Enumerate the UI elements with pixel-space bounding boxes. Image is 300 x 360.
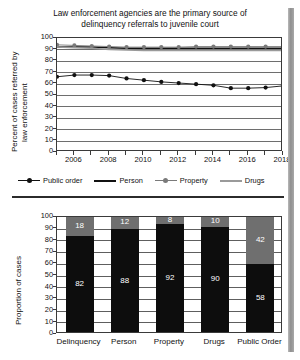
line-chart-x-tickmark (160, 151, 161, 155)
line-chart-x-tickmark (177, 151, 178, 155)
line-chart-x-tickmark (125, 151, 126, 155)
bar-column-drugs[interactable]: 9010 (201, 216, 229, 332)
line-marker (72, 43, 76, 47)
bar-value-label: 88 (111, 277, 139, 285)
bar-value-label: 8 (156, 216, 184, 224)
line-chart-x-tickmark (212, 151, 213, 155)
bar-segment-law-enforcement: 90 (201, 227, 229, 332)
legend-swatch-icon (94, 177, 116, 185)
line-chart-series-layer (57, 38, 282, 151)
line-chart-title-line2: delinquency referrals to juvenile court (30, 19, 270, 30)
bar-segment-law-enforcement: 82 (66, 236, 94, 332)
line-chart-legend: Public orderPersonPropertyDrugs (18, 176, 282, 185)
legend-item-person[interactable]: Person (94, 176, 143, 185)
bar-category-label: Public Order (231, 337, 288, 346)
line-chart-x-tickmark (56, 151, 57, 155)
line-marker (124, 76, 128, 80)
line-chart-x-tickmark (142, 151, 143, 155)
legend-swatch-icon (18, 177, 40, 185)
line-marker (229, 86, 233, 90)
line-marker (211, 83, 215, 87)
bar-chart-y-tick-label: 80 (38, 236, 53, 243)
legend-label: Public order (43, 176, 83, 185)
bar-chart-y-tick-label: 10 (38, 318, 53, 325)
line-chart-y-tick-label: 50 (38, 90, 53, 97)
line-chart-y-tick-label: 80 (38, 56, 53, 63)
line-marker (246, 86, 250, 90)
legend-swatch-icon (220, 177, 242, 185)
bar-value-label: 90 (201, 275, 229, 283)
line-marker (281, 84, 282, 88)
bar-column-delinquency[interactable]: 8218 (66, 216, 94, 332)
line-chart-x-tickmark (247, 151, 248, 155)
legend-item-public-order[interactable]: Public order (18, 176, 83, 185)
bar-column-property[interactable]: 928 (156, 216, 184, 332)
line-marker (90, 44, 94, 48)
line-marker (107, 44, 111, 48)
legend-item-drugs[interactable]: Drugs (220, 176, 266, 185)
bar-segment-law-enforcement: 92 (156, 224, 184, 332)
line-chart-y-tick-label: 10 (38, 136, 53, 143)
legend-swatch-icon (155, 177, 177, 185)
line-marker (211, 44, 215, 48)
line-chart-x-tick-label: 2006 (57, 156, 89, 164)
line-marker (246, 44, 250, 48)
section-divider (12, 196, 284, 198)
bar-segment-law-enforcement: 88 (111, 229, 139, 332)
bar-value-label: 58 (246, 294, 274, 302)
line-chart-y-tick-label: 40 (38, 102, 53, 109)
line-marker (159, 45, 163, 49)
line-chart-y-tick-label: 20 (38, 125, 53, 132)
bar-chart-y-tick-label: 20 (38, 306, 53, 313)
line-marker (142, 45, 146, 49)
scan-artifact-strip (288, 8, 294, 352)
bar-segment-other-source: 8 (156, 216, 184, 224)
legend-label: Person (119, 176, 143, 185)
bar-value-label: 12 (111, 218, 139, 226)
bar-chart-y-tick-label: 70 (38, 247, 53, 254)
legend-label: Drugs (245, 176, 266, 185)
legend-item-property[interactable]: Property (155, 176, 209, 185)
line-chart-x-tick-label: 2010 (127, 156, 159, 164)
bar-segment-other-source: 12 (111, 216, 139, 229)
bar-chart-y-tick-label: 90 (38, 224, 53, 231)
bar-column-person[interactable]: 8812 (111, 216, 139, 332)
line-chart-y-axis-label-line2: law enforcement (20, 83, 29, 142)
line-marker (264, 44, 268, 48)
line-chart-y-tick-label: 30 (38, 113, 53, 120)
bar-chart-y-tick-label: 60 (38, 259, 53, 266)
line-chart-title-line1: Law enforcement agencies are the primary… (30, 8, 270, 19)
bar-value-label: 92 (156, 274, 184, 282)
bar-value-label: 10 (201, 217, 229, 225)
line-chart-x-tick-label: 2008 (92, 156, 124, 164)
line-chart-y-tick-label: 90 (38, 45, 53, 52)
bar-segment-law-enforcement: 58 (246, 264, 274, 332)
line-marker (57, 75, 59, 79)
bar-chart-y-tick-label: 100 (38, 212, 53, 219)
line-chart-x-tickmark (108, 151, 109, 155)
line-marker (124, 45, 128, 49)
bar-column-public-order[interactable]: 5842 (246, 216, 274, 332)
line-chart-y-tick-label: 70 (38, 68, 53, 75)
line-chart-y-axis-label-line1: Percent of cases referred by (10, 52, 19, 153)
bar-chart-y-axis-label: Proportion of cases (14, 256, 23, 325)
line-chart-x-tickmark (264, 151, 265, 155)
bar-chart-plot-area: 8218881292890105842 (56, 216, 282, 333)
bar-chart-y-tick-label: 40 (38, 283, 53, 290)
line-marker (229, 44, 233, 48)
bar-chart-y-tick-label: 0 (38, 329, 53, 336)
line-chart-plot-area (56, 37, 282, 151)
line-marker (194, 44, 198, 48)
line-chart-title: Law enforcement agencies are the primary… (30, 8, 270, 29)
line-marker (281, 44, 282, 48)
line-marker (159, 80, 163, 84)
bar-value-label: 18 (66, 222, 94, 230)
line-chart-x-tick-label: 2012 (162, 156, 194, 164)
line-marker (177, 45, 181, 49)
line-marker (177, 81, 181, 85)
line-chart-x-tickmark (195, 151, 196, 155)
line-chart-x-tick-label: 2016 (231, 156, 263, 164)
line-chart-x-tickmark (282, 151, 283, 155)
line-marker (107, 74, 111, 78)
line-marker (264, 85, 268, 89)
